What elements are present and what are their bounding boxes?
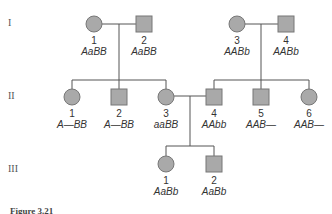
label-III-1: 1 AaBb — [146, 175, 186, 197]
individual-I-2 — [136, 16, 152, 32]
genotype: AaBB — [124, 46, 164, 57]
individual-number: 3 — [217, 35, 257, 46]
genotype: AABb — [217, 46, 257, 57]
label-II-3: 3 aaBB — [146, 108, 186, 130]
individual-II-1 — [64, 89, 80, 105]
generation-label-I: I — [8, 17, 11, 28]
individual-number: 5 — [241, 108, 281, 119]
individual-II-5 — [253, 89, 269, 105]
genotype: A—BB — [99, 119, 139, 130]
individual-I-4 — [278, 16, 294, 32]
individual-number: 1 — [52, 108, 92, 119]
individual-I-1 — [86, 16, 102, 32]
individual-number: 4 — [194, 108, 234, 119]
genotype: AaBB — [74, 46, 114, 57]
label-I-2: 2 AaBB — [124, 35, 164, 57]
label-II-6: 6 AAB— — [289, 108, 329, 130]
individual-III-2 — [206, 156, 222, 172]
individual-number: 4 — [266, 35, 306, 46]
individual-number: 3 — [146, 108, 186, 119]
individual-number: 1 — [146, 175, 186, 186]
generation-label-II: II — [8, 90, 15, 101]
individual-III-1 — [158, 156, 174, 172]
label-II-4: 4 AAbb — [194, 108, 234, 130]
genotype: AAB— — [289, 119, 329, 130]
individual-II-2 — [111, 89, 127, 105]
label-II-1: 1 A—BB — [52, 108, 92, 130]
label-II-5: 5 AAB— — [241, 108, 281, 130]
label-I-3: 3 AABb — [217, 35, 257, 57]
genotype: AaBb — [146, 186, 186, 197]
label-I-4: 4 AABb — [266, 35, 306, 57]
genotype: AABb — [266, 46, 306, 57]
individual-II-4 — [206, 89, 222, 105]
figure-caption: Figure 3.21 — [10, 206, 53, 214]
genotype: AAbb — [194, 119, 234, 130]
individual-number: 1 — [74, 35, 114, 46]
individual-II-3 — [158, 89, 174, 105]
label-III-2: 2 AaBb — [194, 175, 234, 197]
individual-number: 2 — [124, 35, 164, 46]
label-I-1: 1 AaBB — [74, 35, 114, 57]
generation-label-III: III — [8, 163, 18, 174]
individual-number: 2 — [194, 175, 234, 186]
genotype: A—BB — [52, 119, 92, 130]
individual-number: 2 — [99, 108, 139, 119]
individual-II-6 — [301, 89, 317, 105]
genotype: aaBB — [146, 119, 186, 130]
label-II-2: 2 A—BB — [99, 108, 139, 130]
genotype: AaBb — [194, 186, 234, 197]
individual-I-3 — [229, 16, 245, 32]
genotype: AAB— — [241, 119, 281, 130]
individual-number: 6 — [289, 108, 329, 119]
